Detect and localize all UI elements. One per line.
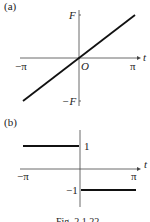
x-tick-neg-pi: −π: [17, 170, 29, 182]
x-axis-arrow-icon: [137, 56, 141, 60]
panel-b: (b) 1 −1 −π π t: [4, 116, 148, 207]
panel-b-label: (b): [4, 116, 17, 129]
x-axis-label: t: [143, 51, 147, 63]
y-tick-neg-1: −1: [66, 184, 78, 196]
y-tick-neg-F: −F: [62, 95, 76, 107]
panel-a-label: (a): [4, 0, 17, 13]
x-axis-label: t: [144, 158, 148, 170]
x-axis-arrow-icon: [137, 167, 141, 171]
y-tick-1: 1: [84, 140, 90, 152]
figure-caption: Fig. 2.1.22: [56, 216, 99, 222]
origin-label: O: [81, 60, 89, 72]
y-tick-F: F: [68, 9, 76, 21]
figure: (a) F −F O −π π t (b) 1 −1 −π π t: [0, 0, 150, 222]
x-tick-neg-pi: −π: [15, 60, 27, 72]
x-tick-pi: π: [130, 60, 136, 72]
x-tick-pi: π: [131, 170, 137, 182]
panel-a: (a) F −F O −π π t: [4, 0, 147, 107]
